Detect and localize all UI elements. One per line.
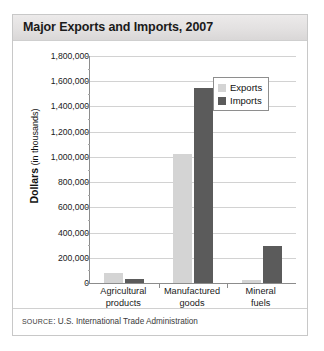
x-axis-category-label-line: Mineral — [226, 286, 295, 298]
source-body: U.S. International Trade Administration — [58, 317, 198, 326]
source-prefix: SOURCE — [22, 318, 53, 325]
bar-exports-2[interactable] — [242, 280, 261, 283]
x-axis-category-label-line: Manufactured — [158, 286, 227, 298]
x-axis-category-label: Mineralfuels — [226, 286, 295, 309]
legend-item-imports: Imports — [218, 94, 262, 107]
legend-label-exports: Exports — [230, 82, 262, 93]
legend-item-exports: Exports — [218, 81, 262, 94]
legend-swatch-imports-icon — [218, 97, 226, 105]
y-axis-tick-label: 1,600,000 — [51, 76, 89, 86]
y-axis-tick-label: 1,400,000 — [51, 101, 89, 111]
y-axis-tick-label: 600,000 — [58, 202, 89, 212]
source-bar: SOURCE: U.S. International Trade Adminis… — [13, 308, 307, 335]
x-axis-category-label: Manufacturedgoods — [158, 286, 227, 309]
y-axis-tick-label: 800,000 — [58, 177, 89, 187]
y-axis-tick-label: 1,000,000 — [51, 152, 89, 162]
y-axis-tick-label: 200,000 — [58, 253, 89, 263]
bar-group — [104, 56, 144, 283]
source-note: SOURCE: U.S. International Trade Adminis… — [22, 317, 198, 326]
x-axis-category-label-line: Agricultural — [89, 286, 158, 298]
chart-title-bar: Major Exports and Imports, 2007 — [13, 15, 307, 41]
plot-wrapper: Dollars (in thousands) 1,800,0001,600,00… — [13, 42, 307, 310]
y-axis-tick-label: 400,000 — [58, 228, 89, 238]
bar-imports-0[interactable] — [125, 279, 144, 283]
y-axis-tick-label: 1,200,000 — [51, 127, 89, 137]
bar-imports-2[interactable] — [263, 246, 282, 283]
chart-legend: Exports Imports — [213, 77, 269, 111]
x-axis-category-label: Agriculturalproducts — [89, 286, 158, 309]
page-title: Major Exports and Imports, 2007 — [23, 20, 213, 34]
y-axis-major-tick — [86, 283, 90, 284]
bar-group — [173, 56, 213, 283]
bar-imports-1[interactable] — [194, 88, 213, 283]
legend-label-imports: Imports — [230, 95, 262, 106]
bar-exports-1[interactable] — [173, 154, 192, 283]
y-axis-tick-labels: 1,800,0001,600,0001,400,0001,200,0001,00… — [37, 42, 89, 287]
bar-exports-0[interactable] — [104, 273, 123, 283]
legend-swatch-exports-icon — [218, 84, 226, 92]
chart-figure: Major Exports and Imports, 2007 Dollars … — [12, 14, 308, 336]
y-axis-tick-label: 1,800,000 — [51, 51, 89, 61]
